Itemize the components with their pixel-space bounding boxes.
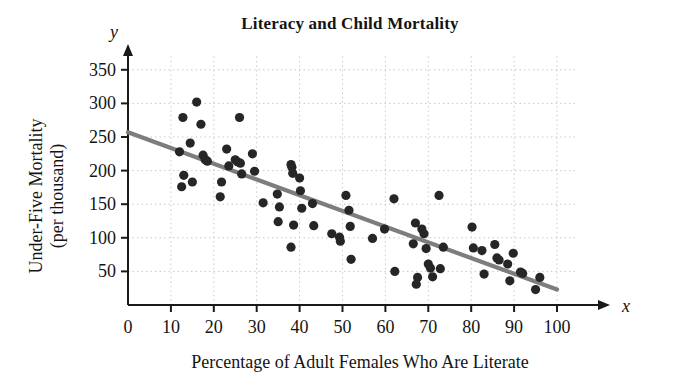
data-point — [380, 224, 389, 233]
data-point — [309, 221, 318, 230]
data-point — [177, 182, 186, 191]
data-point — [222, 144, 231, 153]
x-axis-tick-label: 40 — [291, 317, 309, 337]
data-point — [186, 138, 195, 147]
data-point — [428, 272, 437, 281]
data-point — [203, 157, 212, 166]
data-point — [426, 263, 435, 272]
axis-tick-labels: 5010015020025030035001020304050607080901… — [89, 60, 571, 337]
data-point — [286, 243, 295, 252]
data-point — [505, 276, 514, 285]
x-axis-tick-label: 70 — [419, 317, 437, 337]
data-point — [216, 192, 225, 201]
x-axis-tick-label: 90 — [505, 317, 523, 337]
data-point — [217, 177, 226, 186]
x-axis-title: Percentage of Adult Females Who Are Lite… — [60, 352, 660, 373]
data-point — [503, 259, 512, 268]
data-point — [273, 190, 282, 199]
y-axis-tick-label: 150 — [89, 194, 116, 214]
scatter-plot-canvas: 5010015020025030035001020304050607080901… — [0, 0, 697, 384]
data-point — [409, 239, 418, 248]
data-point — [237, 169, 246, 178]
y-axis-tick-label: 250 — [89, 127, 116, 147]
y-axis-title: Under-Five Mortality (per thousand) — [26, 71, 68, 321]
y-axis-title-line2: (per thousand) — [47, 71, 68, 321]
data-point — [434, 191, 443, 200]
data-point — [436, 264, 445, 273]
data-point — [175, 147, 184, 156]
data-point — [469, 243, 478, 252]
x-axis-tick-label: 10 — [162, 317, 180, 337]
data-point — [479, 269, 488, 278]
data-point — [346, 222, 355, 231]
x-axis-tick-label: 0 — [124, 317, 133, 337]
data-point — [477, 246, 486, 255]
data-point — [188, 177, 197, 186]
data-point — [490, 240, 499, 249]
x-axis-tick-label: 80 — [462, 317, 480, 337]
chart-title: Literacy and Child Mortality — [150, 14, 550, 34]
data-point — [274, 217, 283, 226]
data-point — [422, 244, 431, 253]
chart-figure: Literacy and Child Mortality Under-Five … — [0, 0, 697, 384]
y-axis-tick-label: 100 — [89, 228, 116, 248]
data-point — [248, 149, 257, 158]
data-point — [419, 229, 428, 238]
data-point — [344, 206, 353, 215]
x-axis-arrowhead — [598, 300, 610, 310]
data-point — [289, 220, 298, 229]
y-axis-variable: y — [108, 22, 118, 42]
data-point — [250, 167, 259, 176]
data-point — [297, 204, 306, 213]
data-point — [336, 237, 345, 246]
data-point — [531, 285, 540, 294]
data-point — [467, 222, 476, 231]
y-axis-tick-label: 200 — [89, 161, 116, 181]
x-axis-tick-label: 60 — [376, 317, 394, 337]
x-axis-tick-label: 20 — [205, 317, 223, 337]
data-point — [390, 267, 399, 276]
data-point — [509, 249, 518, 258]
data-point — [235, 113, 244, 122]
data-point — [275, 202, 284, 211]
data-point — [308, 199, 317, 208]
y-axis-tick-label: 50 — [98, 261, 116, 281]
axes — [123, 44, 610, 310]
y-axis-arrowhead — [123, 44, 133, 56]
data-point — [341, 191, 350, 200]
x-axis-tick-label: 30 — [248, 317, 266, 337]
y-axis-tick-label: 300 — [89, 93, 116, 113]
data-point — [179, 171, 188, 180]
data-point — [413, 273, 422, 282]
x-axis-tick-label: 50 — [334, 317, 352, 337]
data-point — [439, 243, 448, 252]
y-axis-tick-label: 350 — [89, 60, 116, 80]
data-point — [236, 159, 245, 168]
data-point — [389, 194, 398, 203]
data-point — [196, 120, 205, 129]
data-point — [259, 198, 268, 207]
data-point — [178, 113, 187, 122]
data-point — [368, 234, 377, 243]
data-point — [494, 255, 503, 264]
axis-ticks — [121, 70, 557, 312]
x-axis-tick-label: 100 — [544, 317, 571, 337]
y-axis-title-line1: Under-Five Mortality — [26, 118, 46, 273]
data-point — [295, 173, 304, 182]
data-point — [296, 186, 305, 195]
data-point — [518, 269, 527, 278]
data-point — [535, 273, 544, 282]
data-point — [192, 97, 201, 106]
data-point — [346, 255, 355, 264]
x-axis-variable: x — [621, 296, 630, 316]
